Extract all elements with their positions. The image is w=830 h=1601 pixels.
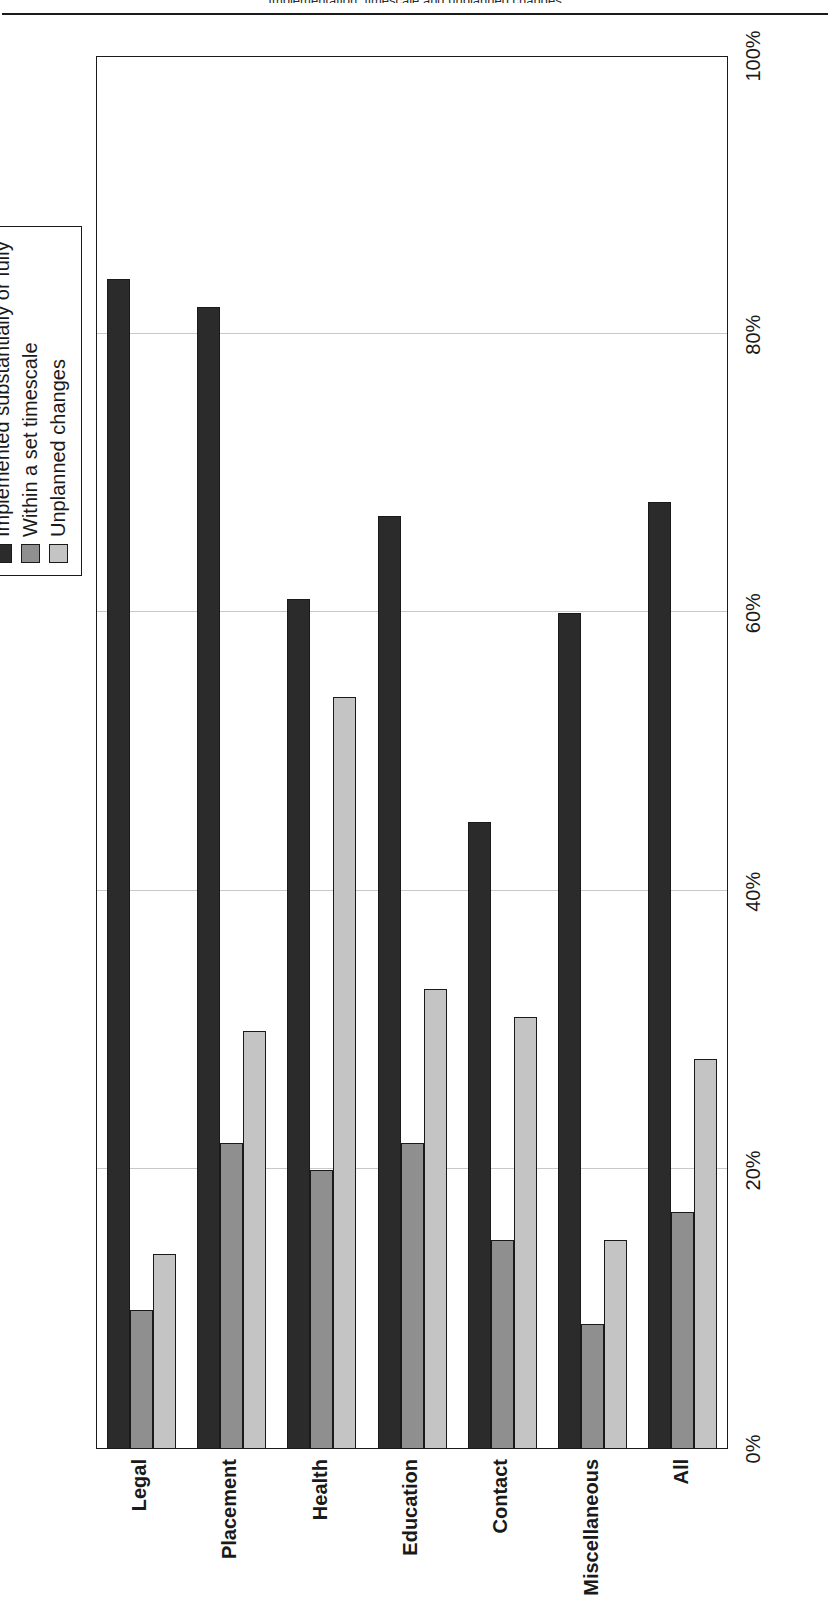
bar-placement-series0	[197, 307, 220, 1449]
bar-legal-series0	[107, 279, 130, 1449]
bar-contact-series1	[491, 1240, 514, 1449]
bar-miscellaneous-series0	[558, 613, 581, 1449]
category-label-placement: Placement	[218, 1459, 241, 1559]
bar-contact-series0	[468, 822, 491, 1449]
bar-education-series0	[378, 516, 401, 1449]
legend-swatch-implemented	[0, 544, 12, 563]
legend-item-0: Implemented substantially or fully	[0, 241, 16, 563]
category-label-all: All	[670, 1459, 693, 1485]
category-label-legal: Legal	[128, 1459, 151, 1511]
gridline-80%	[97, 333, 727, 334]
legend-label-0: Implemented substantially or fully	[0, 241, 14, 537]
category-label-miscellaneous: Miscellaneous	[580, 1459, 603, 1596]
legend-item-2: Unplanned changes	[44, 241, 72, 563]
bar-contact-series2	[514, 1017, 537, 1449]
bar-placement-series1	[220, 1143, 243, 1449]
bar-education-series1	[401, 1143, 424, 1449]
legend-swatch-timescale	[21, 544, 40, 563]
gridline-60%	[97, 611, 727, 612]
bar-health-series1	[310, 1170, 333, 1449]
axis-tick-60%: 60%	[742, 593, 765, 633]
axis-tick-20%: 20%	[742, 1150, 765, 1190]
bar-all-series2	[694, 1059, 717, 1449]
bar-legal-series2	[153, 1254, 176, 1449]
bar-miscellaneous-series1	[581, 1324, 604, 1449]
axis-tick-100%: 100%	[742, 30, 765, 81]
category-label-education: Education	[399, 1459, 422, 1556]
gridline-40%	[97, 890, 727, 891]
bar-chart: Implemented substantially or fullyWithin…	[0, 0, 830, 1601]
bar-health-series2	[333, 697, 356, 1449]
bar-legal-series1	[130, 1310, 153, 1449]
legend-label-1: Within a set timescale	[19, 342, 42, 537]
axis-tick-80%: 80%	[742, 315, 765, 355]
category-label-contact: Contact	[489, 1459, 512, 1533]
figure-rotated-container: Implemented substantially or fullyWithin…	[0, 0, 830, 1601]
bar-all-series1	[671, 1212, 694, 1449]
bar-all-series0	[648, 502, 671, 1449]
legend-swatch-unplanned	[49, 544, 68, 563]
axis-tick-0%: 0%	[742, 1435, 765, 1464]
bar-placement-series2	[243, 1031, 266, 1449]
legend-item-1: Within a set timescale	[16, 241, 44, 563]
legend-label-2: Unplanned changes	[47, 359, 70, 537]
axis-tick-40%: 40%	[742, 872, 765, 912]
category-label-health: Health	[309, 1459, 332, 1520]
bar-education-series2	[424, 989, 447, 1449]
chart-legend: Implemented substantially or fullyWithin…	[0, 226, 82, 576]
bar-miscellaneous-series2	[604, 1240, 627, 1449]
bar-health-series0	[287, 599, 310, 1449]
